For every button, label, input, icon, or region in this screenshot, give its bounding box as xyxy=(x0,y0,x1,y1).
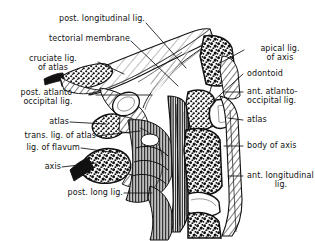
label-apical-lig-of-axis: apical lig. of axis xyxy=(246,44,314,62)
label-post-atlanto-occipital-lig: post. atlanto- occipital lig. xyxy=(0,88,96,106)
label-line: trans. lig. of atlas xyxy=(0,131,96,140)
label-trans-lig-of-atlas: trans. lig. of atlas xyxy=(0,131,96,140)
label-line: occipital lig. xyxy=(0,97,96,106)
label-tectorial-membrane: tectorial membrane xyxy=(0,34,130,43)
label-line: apical lig. xyxy=(246,44,314,53)
label-body-of-axis: body of axis xyxy=(247,141,313,150)
label-atlas-right: atlas xyxy=(247,115,307,124)
label-lig-of-flavum: lig. of flavum xyxy=(0,143,80,152)
label-line: post. long lig. xyxy=(0,188,123,197)
label-axis: axis xyxy=(0,162,61,171)
label-line: ant. longitudinal xyxy=(247,171,315,180)
label-line: occipital lig. xyxy=(247,96,315,105)
label-post-long-lig: post. long lig. xyxy=(0,188,123,197)
label-line: lig. xyxy=(247,180,315,189)
anatomical-figure: post. longitudinal lig. tectorial membra… xyxy=(0,0,315,241)
vertebral-column-anterior xyxy=(184,36,242,239)
label-line: of atlas xyxy=(8,63,98,72)
label-line: post. longitudinal lig. xyxy=(0,14,145,23)
label-atlas-left: atlas xyxy=(0,117,69,126)
label-line: body of axis xyxy=(247,141,313,150)
label-odontoid: odontoid xyxy=(247,69,313,78)
label-line: tectorial membrane xyxy=(0,34,130,43)
lower-posterior-soft-tissue xyxy=(148,186,173,240)
label-line: cruciate lig. xyxy=(8,54,98,63)
label-line: odontoid xyxy=(247,69,313,78)
label-line: atlas xyxy=(0,117,69,126)
label-line: post. atlanto- xyxy=(0,88,96,97)
label-ant-atlanto-occipital-lig: ant. atlanto- occipital lig. xyxy=(247,87,315,105)
label-line: ant. atlanto- xyxy=(247,87,315,96)
label-cruciate-lig-of-atlas: cruciate lig. of atlas xyxy=(8,54,98,72)
label-line: of axis xyxy=(246,53,314,62)
label-post-longitudinal-lig: post. longitudinal lig. xyxy=(0,14,145,23)
label-line: atlas xyxy=(247,115,307,124)
label-ant-longitudinal-lig: ant. longitudinal lig. xyxy=(247,171,315,189)
label-line: lig. of flavum xyxy=(0,143,80,152)
label-line: axis xyxy=(0,162,61,171)
